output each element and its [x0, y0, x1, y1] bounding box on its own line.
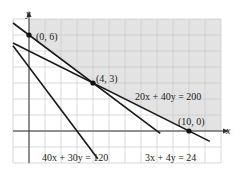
equation-label-20x-40y: 20x + 40y = 200 [135, 91, 201, 102]
x-axis-label: x [225, 125, 231, 136]
point-label-4-3: (4, 3) [96, 73, 118, 85]
equation-label-40x-30y: 40x + 30y = 120 [42, 152, 108, 163]
point-label-0-6: (0, 6) [36, 31, 58, 43]
vertex-point [26, 32, 31, 37]
y-axis-label: y [25, 8, 31, 19]
point-label-10-0: (10, 0) [178, 116, 205, 128]
vertex-point [90, 80, 95, 85]
equation-label-3x-4y: 3x + 4y = 24 [145, 152, 196, 163]
linear-programming-graph: y x (0, 6) (4, 3) (10, 0) 20x + 40y = 20… [0, 0, 239, 172]
vertex-point [186, 128, 191, 133]
